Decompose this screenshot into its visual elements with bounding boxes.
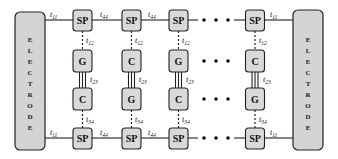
column-4: SP C G SP [246, 10, 265, 149]
upper-label: C [251, 56, 258, 67]
sp-label: SP [173, 15, 185, 26]
ellipsis-lower [202, 97, 230, 101]
label-t11: t11 [270, 128, 278, 138]
label-t11: t11 [50, 128, 58, 138]
electrode-letter: D [305, 113, 310, 121]
label-t44: t44 [148, 10, 156, 20]
sp-label: SP [249, 15, 261, 26]
upper-label: G [79, 56, 87, 67]
lower-label: C [175, 94, 182, 105]
label-t11: t11 [50, 10, 58, 20]
ellipsis-top [202, 18, 230, 22]
molecular-junction-diagram: E L E C T R O D E E L E C T R O D E SP G… [0, 0, 338, 159]
label-t23: t23 [263, 75, 271, 85]
label-t34: t34 [86, 115, 94, 125]
label-t12: t12 [135, 36, 143, 46]
electrode-letter: C [27, 69, 32, 77]
electrode-letter: L [306, 47, 311, 55]
label-t44: t44 [148, 128, 156, 138]
lower-label: C [79, 94, 86, 105]
label-t23: t23 [139, 75, 147, 85]
electrode-letter: D [27, 113, 32, 121]
triple-bond [80, 72, 86, 88]
label-t12: t12 [182, 36, 190, 46]
label-t23: t23 [90, 75, 98, 85]
sp-label: SP [249, 133, 261, 144]
electrode-letter: E [306, 36, 311, 44]
label-t12: t12 [259, 36, 267, 46]
label-t12: t12 [86, 36, 94, 46]
electrode-letter: E [306, 124, 311, 132]
label-t44: t44 [100, 128, 108, 138]
electrode-letter: C [305, 69, 310, 77]
electrode-letter: T [306, 80, 311, 88]
sp-label: SP [126, 15, 138, 26]
electrode-letter: E [28, 36, 33, 44]
triple-bond [176, 72, 182, 88]
ellipsis-upper [202, 59, 230, 63]
upper-label: C [128, 56, 135, 67]
left-electrode: E L E C T R O D E [15, 12, 45, 150]
triple-bond [129, 72, 135, 88]
electrode-letter: E [306, 58, 311, 66]
electrode-letter: T [28, 80, 33, 88]
triple-bond [252, 72, 258, 88]
label-t44: t44 [100, 10, 108, 20]
electrode-letter: E [28, 58, 33, 66]
electrode-letter: O [305, 102, 311, 110]
ellipsis-bottom [202, 136, 230, 140]
label-t34: t34 [259, 115, 267, 125]
sp-label: SP [173, 133, 185, 144]
label-t23: t23 [186, 75, 194, 85]
right-electrode: E L E C T R O D E [293, 10, 323, 150]
electrode-letter: L [28, 47, 33, 55]
label-t11: t11 [270, 10, 278, 20]
lower-label: G [128, 94, 136, 105]
label-t34: t34 [135, 115, 143, 125]
label-t34: t34 [182, 115, 190, 125]
electrode-letter: E [28, 124, 33, 132]
sp-label: SP [77, 133, 89, 144]
electrode-letter: O [27, 102, 33, 110]
lower-label: G [251, 94, 259, 105]
upper-label: G [175, 56, 183, 67]
sp-label: SP [126, 133, 138, 144]
sp-label: SP [77, 15, 89, 26]
